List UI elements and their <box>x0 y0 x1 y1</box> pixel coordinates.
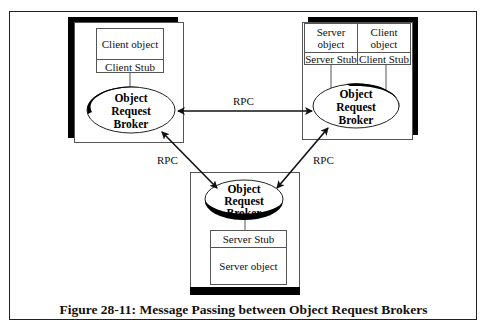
svg-text:Object: Object <box>339 88 372 101</box>
client-orb: Object Request Broker <box>87 87 175 133</box>
svg-text:Object: Object <box>114 92 147 105</box>
svg-text:Broker: Broker <box>339 114 374 126</box>
rpc-label-top: RPC <box>233 95 254 107</box>
svg-text:Broker: Broker <box>114 118 149 130</box>
server-orb: Object Request Broker <box>205 180 283 220</box>
rpc-label-right: RPC <box>313 154 334 166</box>
svg-text:Request: Request <box>336 101 376 114</box>
server-client-orb: Object Request Broker <box>313 83 400 128</box>
svg-text:Request: Request <box>111 105 151 118</box>
svg-text:Broker: Broker <box>227 207 262 219</box>
figure-caption: Figure 28-11: Message Passing between Ob… <box>0 302 487 318</box>
rpc-label-left: RPC <box>157 154 178 166</box>
diagram-graphics: Object Request Broker Object Request Bro… <box>0 0 487 329</box>
